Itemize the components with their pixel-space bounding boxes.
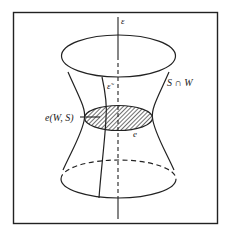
epsilon-tilde-curve [99, 77, 106, 198]
curve-label: ε̃ [107, 81, 115, 91]
axis-label: ε [121, 16, 125, 26]
hyperboloid-diagram: ε ε̃ S ∩ W e(W, S) e [0, 0, 231, 237]
bottom-ellipse-front [61, 179, 176, 198]
disk-label: e(W, S) [45, 112, 74, 124]
surface-intersection-label: S ∩ W [167, 77, 194, 88]
disk-short-label: e [133, 129, 137, 139]
